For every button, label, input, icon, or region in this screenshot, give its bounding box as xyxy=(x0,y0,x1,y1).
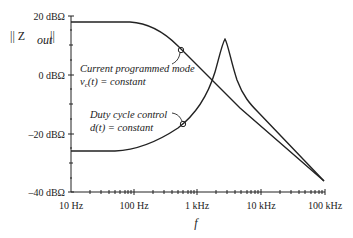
y-axis-title: || Z xyxy=(10,29,25,43)
x-tick-label: 10 kHz xyxy=(246,200,276,211)
y-tick-label: 0 dBΩ xyxy=(38,70,65,81)
y-axis-title-end: || xyxy=(50,29,55,43)
x-tick-label: 10 Hz xyxy=(59,200,84,211)
y-tick-label: 20 dBΩ xyxy=(33,11,65,22)
series-current-programmed-mode xyxy=(71,22,324,181)
annotation-cpm-line2: vc(t) = constant xyxy=(80,76,147,89)
axes xyxy=(68,16,325,195)
y-tick-label: –20 dBΩ xyxy=(27,129,65,140)
output-impedance-chart: 20 dBΩ 0 dBΩ –20 dBΩ –40 dBΩ || Z out ||… xyxy=(0,0,353,238)
x-axis-title: f xyxy=(194,216,199,230)
x-tick-label: 100 Hz xyxy=(119,200,149,211)
y-tick-label: –40 dBΩ xyxy=(27,187,65,198)
curves xyxy=(71,22,324,181)
x-tick-label: 100 kHz xyxy=(308,200,343,211)
annotation-leader xyxy=(172,113,182,121)
x-tick-label: 1 kHz xyxy=(185,200,210,211)
annotation-dcc-line2: d(t) = constant xyxy=(90,122,154,134)
annotation-cpm-line1: Current programmed mode xyxy=(80,63,195,74)
annotation-dcc-line1: Duty cycle control xyxy=(89,109,167,120)
